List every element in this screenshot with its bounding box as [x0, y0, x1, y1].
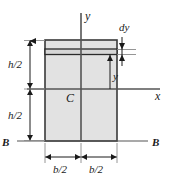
section-label-right-b: B	[151, 136, 159, 148]
h-half-upper-arrowhead-down	[27, 83, 33, 89]
dy-arrowhead-up	[119, 55, 125, 61]
y-distance-label: y	[112, 70, 118, 82]
b-half-right-arrowhead-right	[111, 154, 117, 160]
figure-canvas: y x C dy y h/2 h/2 b/2 b/2 B B	[0, 0, 169, 182]
y-axis-label: y	[84, 9, 91, 23]
b-half-left-label: b/2	[53, 163, 68, 175]
dy-arrowhead-down	[119, 43, 125, 49]
b-half-left-arrowhead-right	[75, 154, 81, 160]
section-label-left-b: B	[1, 136, 9, 148]
h-half-lower-label: h/2	[8, 109, 23, 121]
x-axis-label: x	[154, 89, 161, 103]
h-half-lower-arrowhead-up	[27, 89, 33, 95]
b-half-right-arrowhead-left	[81, 154, 87, 160]
h-half-upper-label: h/2	[8, 58, 23, 70]
b-half-right-label: b/2	[89, 163, 104, 175]
dy-label: dy	[119, 21, 130, 33]
centroid-label: C	[66, 91, 75, 105]
rectangular-cross-section-figure: y x C dy y h/2 h/2 b/2 b/2 B B	[0, 0, 169, 182]
b-half-left-arrowhead-left	[45, 154, 51, 160]
h-half-lower-arrowhead-down	[27, 135, 33, 141]
